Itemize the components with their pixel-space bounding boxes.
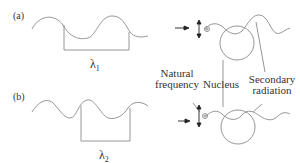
nucleus-circle-a — [220, 26, 254, 60]
electron-b — [203, 114, 208, 119]
lambda-subscript: 1 — [96, 64, 100, 73]
wavelength-bracket-b — [81, 106, 130, 141]
lambda-subscript: 2 — [105, 155, 109, 163]
natural-frequency-line2: frequency — [152, 79, 202, 90]
wavelength-label-b: λ2 — [99, 150, 109, 163]
diagram: (a) λ1 (b) λ2 Natural frequency Nucleus … — [0, 0, 300, 163]
secondary-wave-b — [206, 111, 290, 120]
electron-core-a — [206, 28, 208, 30]
nucleus-label: Nucleus — [203, 79, 239, 90]
secondary-line2: radiation — [243, 85, 300, 96]
secondary-leader-a — [256, 22, 265, 72]
electron-core-b — [204, 115, 206, 117]
secondary-leader-b — [253, 104, 262, 112]
secondary-radiation-label: Secondary radiation — [243, 74, 300, 96]
wavelength-label-a: λ1 — [90, 59, 100, 74]
incident-wave-a — [32, 16, 148, 39]
secondary-wave-a — [204, 15, 290, 34]
natural-frequency-label: Natural frequency — [152, 68, 202, 90]
panel-tag-b: (b) — [13, 91, 25, 102]
nucleus-circle-b — [221, 110, 255, 144]
incident-wave-b — [32, 100, 148, 119]
panel-tag-a: (a) — [13, 10, 24, 21]
